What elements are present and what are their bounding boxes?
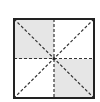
center-point [53, 57, 55, 59]
shaded-bottom-right-quadrant [54, 59, 94, 98]
shaded-top-left-quadrant [14, 19, 54, 59]
square-diagram [0, 0, 100, 102]
